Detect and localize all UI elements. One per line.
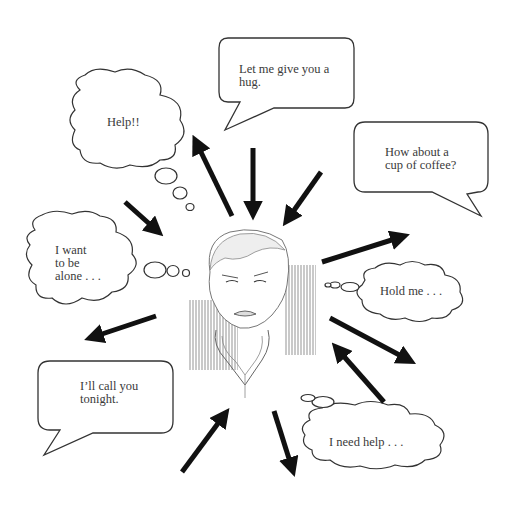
need-help-text: I need help . . . bbox=[329, 436, 403, 449]
speech-bubble-call bbox=[38, 361, 173, 455]
hold-text: Hold me . . . bbox=[380, 285, 442, 298]
thought-cloud-need-help bbox=[301, 395, 444, 469]
arrow-right-up bbox=[322, 238, 398, 262]
thought-cloud-alone bbox=[26, 211, 189, 304]
arrow-up-right-bottom bbox=[182, 418, 222, 472]
arrow-down-bottom bbox=[274, 411, 291, 465]
help-text: Help!! bbox=[107, 116, 140, 129]
arrow-left-call bbox=[96, 316, 156, 336]
call-text: I’ll call you tonight. bbox=[80, 380, 138, 406]
person-sketch-icon bbox=[188, 230, 316, 398]
diagram-canvas: Let me give you a hug. How about a cup o… bbox=[0, 0, 514, 513]
arrow-down-right-help bbox=[125, 202, 154, 228]
arrow-up-left-needhelp bbox=[340, 352, 384, 402]
arrow-up-left-help bbox=[198, 146, 232, 216]
alone-text: I want to be alone . . . bbox=[55, 244, 101, 283]
arrow-down-left-coffee bbox=[290, 172, 321, 216]
hug-text: Let me give you a hug. bbox=[239, 63, 329, 89]
coffee-text: How about a cup of coffee? bbox=[385, 146, 456, 172]
thought-cloud-help bbox=[70, 69, 194, 210]
